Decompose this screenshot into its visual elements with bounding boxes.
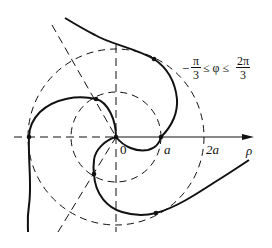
range-upper-denominator: 3 xyxy=(236,69,250,81)
point-inner-upper-left xyxy=(94,97,99,102)
point-tangent-upper xyxy=(152,57,157,62)
axis-label-rho: ρ xyxy=(246,144,252,157)
tick-label-a: a xyxy=(164,143,171,156)
diagram-canvas xyxy=(0,0,272,248)
range-phi: ≤ φ ≤ xyxy=(203,62,229,74)
range-minus: − xyxy=(182,62,189,75)
range-upper-numerator: 2π xyxy=(236,55,250,67)
range-lower-numerator: π xyxy=(191,55,201,67)
curve-arm-lower xyxy=(94,137,249,215)
tick-label-2a: 2a xyxy=(206,143,219,156)
point-tangent-lower xyxy=(154,211,159,216)
point-origin xyxy=(114,135,119,140)
range-lower-denominator: 3 xyxy=(191,69,201,81)
dashed-ray-upper xyxy=(52,25,116,137)
origin-label: 0 xyxy=(120,143,127,156)
axis-arrow-icon xyxy=(242,134,254,140)
polar-diagram: 0 a 2a ρ − π 3 ≤ φ ≤ 2π 3 xyxy=(0,0,272,248)
dashed-ray-lower xyxy=(58,137,116,232)
point-inner-lower-left xyxy=(92,172,97,177)
point-tangent-left xyxy=(27,135,32,140)
curve-arm-right xyxy=(65,18,177,150)
curve-arm-left xyxy=(28,97,116,232)
point-a xyxy=(159,135,164,140)
